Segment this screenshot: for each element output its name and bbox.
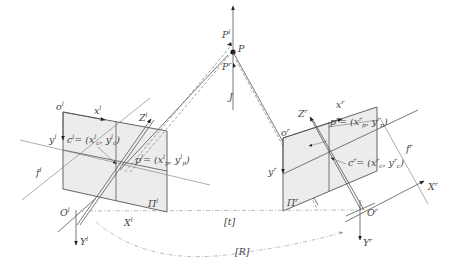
label-yl: yl	[48, 133, 56, 145]
label-xl: xl	[94, 104, 101, 116]
label-cl-coords: cl= (xlc, ylc)	[67, 133, 120, 146]
label-fr: fr	[405, 142, 414, 154]
label-Pl: Pl	[221, 28, 230, 40]
label-Zl: Zl	[138, 111, 148, 123]
label-Pr: Pr	[221, 60, 232, 72]
label-rotation: [R]	[235, 246, 250, 257]
label-cr-coords: cr= (xrc, yrc)	[348, 156, 404, 169]
left-ray-solid	[120, 55, 228, 170]
label-Yl: Yl	[80, 235, 88, 247]
label-ol: ol	[56, 100, 64, 112]
label-Yr: Yr	[363, 236, 373, 248]
label-fl: fl	[35, 166, 42, 178]
label-Pi-r: Πr	[286, 196, 299, 208]
label-Xr: Xr	[427, 180, 439, 192]
label-translation: [t]	[224, 216, 236, 227]
label-yr: yr	[267, 165, 277, 177]
stereo-geometry-diagram: Pl P Pr J ol xl yl cl= (xlc, ylc) Zl pl=…	[0, 0, 455, 272]
Pr-marker	[233, 63, 236, 68]
label-xr: xr	[336, 98, 345, 110]
left-camera	[20, 98, 210, 245]
translation-baseline	[80, 210, 360, 211]
label-Or: Or	[367, 206, 379, 218]
Pl-marker	[227, 42, 232, 46]
rotation-arc	[96, 222, 343, 257]
label-P: P	[237, 43, 245, 54]
label-Xl: Xl	[123, 216, 133, 228]
label-Zr: Zr	[297, 107, 309, 119]
label-pr-coords: pr= (xrp, yrp)	[330, 115, 388, 129]
label-pl-coords: pl= (xlp, ylp)	[135, 153, 190, 167]
right-X-world-axis-arrow	[345, 181, 424, 222]
label-Ol: Ol	[60, 206, 70, 218]
